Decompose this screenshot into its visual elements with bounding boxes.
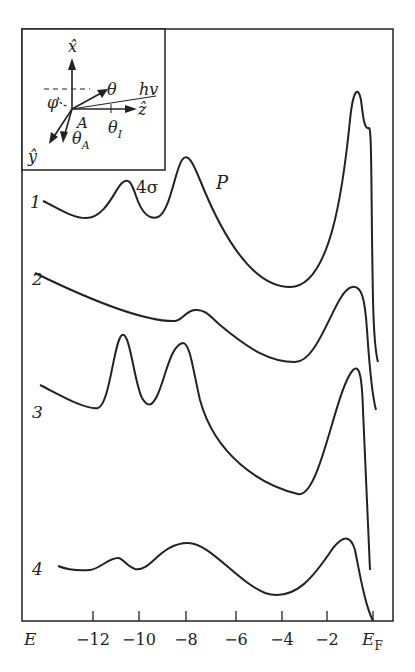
spectra-curves: [35, 92, 378, 621]
curve-2: [35, 273, 376, 410]
curve-1-label: 1: [30, 192, 41, 212]
curve-4: [58, 538, 373, 621]
inset-diagram: x̂ θ hv ẑ φ A θA θI ŷ: [22, 29, 165, 170]
peak-4sigma-label: 4σ: [136, 177, 159, 197]
x-tick-label: −8: [174, 630, 198, 649]
curve-4-label: 4: [31, 559, 43, 579]
inset-y-label: ŷ: [27, 147, 38, 166]
spectra-chart: x̂ θ hv ẑ φ A θA θI ŷ 1 2 3 4 4σ P E −12…: [0, 0, 415, 672]
inset-theta-label: θ: [107, 80, 117, 99]
x-ticks: [93, 611, 373, 621]
x-tick-label: −6: [224, 630, 248, 649]
curve-2-label: 2: [31, 269, 43, 289]
curve-3: [40, 335, 370, 570]
x-tick-label: −4: [270, 630, 294, 649]
peak-P-label: P: [215, 172, 229, 193]
curve-3-label: 3: [32, 402, 43, 422]
inset-z-label: ẑ: [137, 100, 147, 119]
x-axis-E-label: E: [23, 629, 37, 649]
inset-hv-label: hv: [139, 80, 158, 99]
x-tick-label: −2: [315, 630, 339, 649]
x-tick-label: −12: [76, 630, 110, 649]
x-tick-label: −10: [122, 630, 156, 649]
inset-phi-label: φ: [47, 93, 59, 112]
x-axis-EF-label: EF: [361, 629, 383, 653]
inset-x-label: x̂: [68, 37, 77, 56]
